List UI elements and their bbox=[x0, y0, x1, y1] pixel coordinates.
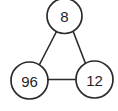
node-top[interactable]: 8 bbox=[47, 0, 82, 34]
node-bottom-right-label: 12 bbox=[86, 72, 103, 89]
diagram-canvas: 8 96 12 bbox=[0, 0, 118, 111]
node-top-label: 8 bbox=[60, 8, 68, 25]
edge-top-to-bottom-left bbox=[40, 32, 57, 65]
node-group: 8 96 12 bbox=[11, 0, 113, 99]
node-bottom-left[interactable]: 96 bbox=[11, 62, 48, 99]
edge-top-to-bottom-right bbox=[73, 31, 86, 64]
number-triangle-diagram: 8 96 12 bbox=[0, 0, 118, 111]
node-bottom-left-label: 96 bbox=[21, 73, 38, 90]
node-bottom-right[interactable]: 12 bbox=[76, 61, 113, 98]
